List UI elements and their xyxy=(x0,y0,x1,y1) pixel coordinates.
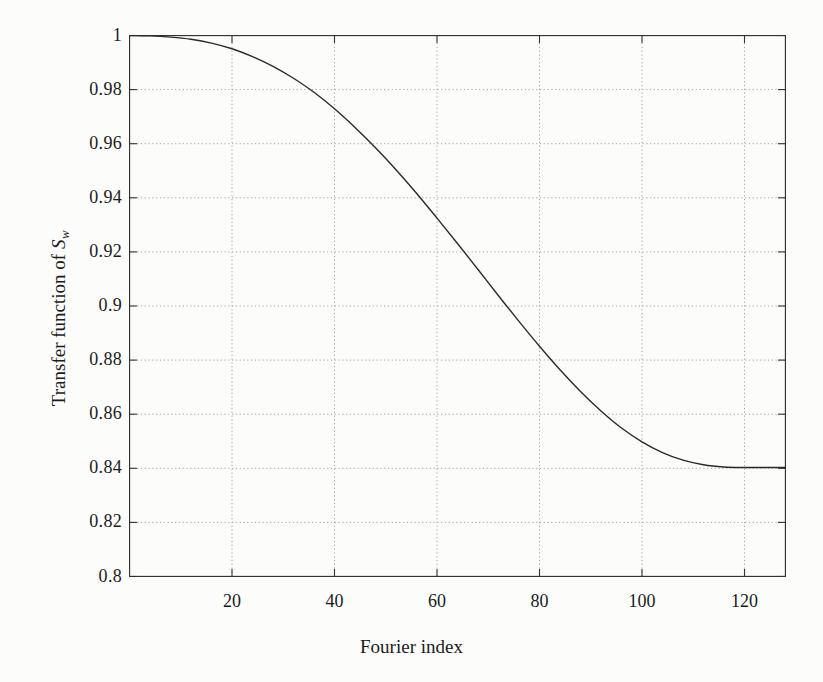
x-axis-tick-label: 60 xyxy=(397,592,477,610)
x-axis-tick-label: 120 xyxy=(705,592,785,610)
y-axis-title-symbol: S xyxy=(48,240,69,250)
plot-svg xyxy=(129,35,786,577)
y-axis-title: Transfer function of Sw xyxy=(48,118,73,518)
data-series-line xyxy=(130,36,786,468)
x-axis-tick-label: 100 xyxy=(602,592,682,610)
x-axis-tick-label: 40 xyxy=(295,592,375,610)
x-axis-tick-labels: 20406080100120 xyxy=(0,592,823,622)
chart-figure: 0.80.820.840.860.880.90.920.940.960.981 … xyxy=(0,0,823,682)
x-axis-tick-label: 20 xyxy=(192,592,272,610)
y-axis-tick-label: 0.98 xyxy=(52,80,122,98)
x-axis-tick-label: 80 xyxy=(500,592,580,610)
plot-frame xyxy=(130,36,786,577)
gridlines xyxy=(130,36,786,577)
plot-area xyxy=(129,35,786,577)
y-axis-title-subscript: w xyxy=(56,230,71,239)
y-axis-tick-label: 0.8 xyxy=(52,567,122,585)
x-axis-title: Fourier index xyxy=(0,636,823,658)
y-axis-title-prefix: Transfer function of xyxy=(48,249,69,406)
y-axis-tick-label: 1 xyxy=(52,26,122,44)
axis-ticks xyxy=(130,36,786,577)
